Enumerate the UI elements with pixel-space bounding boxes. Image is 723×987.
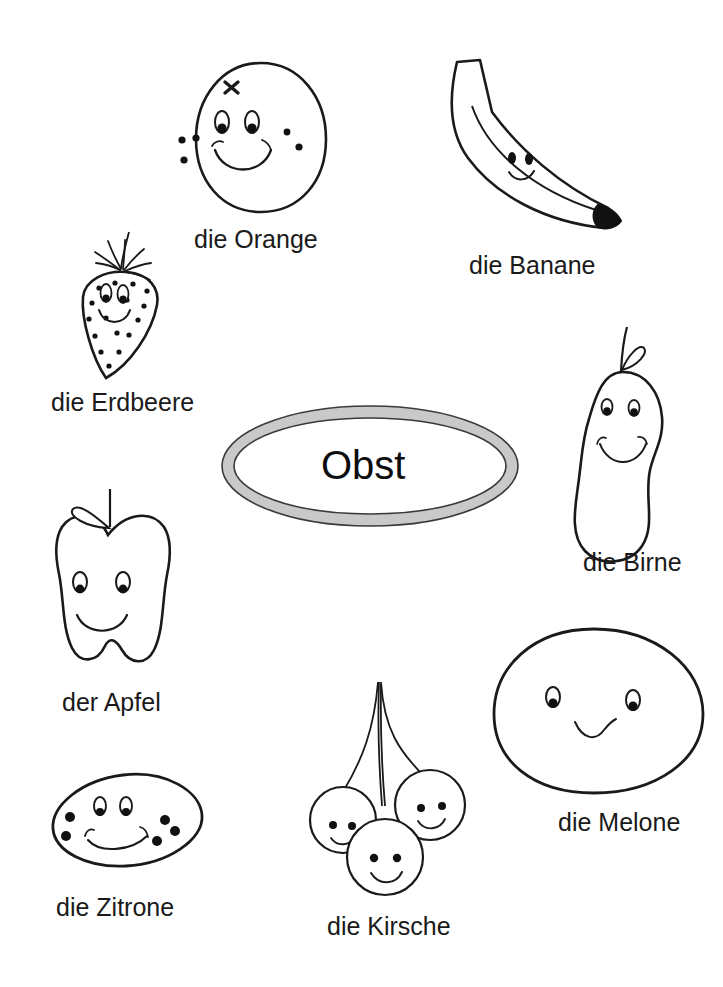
erdbeere-illustration: [83, 232, 158, 378]
label-die-kirsche: die Kirsche: [327, 912, 451, 941]
kirsche-illustration: [310, 682, 465, 895]
melone-illustration: [494, 629, 703, 793]
label-die-orange: die Orange: [194, 225, 318, 254]
pear-leaf: [622, 347, 645, 370]
obst-center-label: Obst: [321, 443, 405, 488]
zitrone-illustration: [53, 774, 202, 866]
birne-illustration: [575, 327, 663, 561]
orange-illustration: [178, 63, 326, 212]
banane-illustration: [452, 60, 621, 228]
label-die-birne: die Birne: [583, 548, 682, 577]
worksheet-page: Obst die Orange die Banane die Erdbeere …: [0, 0, 723, 987]
label-die-banane: die Banane: [469, 251, 596, 280]
label-die-erdbeere: die Erdbeere: [51, 388, 194, 417]
label-die-melone: die Melone: [558, 808, 680, 837]
label-die-zitrone: die Zitrone: [56, 893, 174, 922]
apfel-illustration: [56, 489, 169, 661]
label-der-apfel: der Apfel: [62, 688, 161, 717]
fruit-illustrations-canvas: [0, 0, 723, 987]
